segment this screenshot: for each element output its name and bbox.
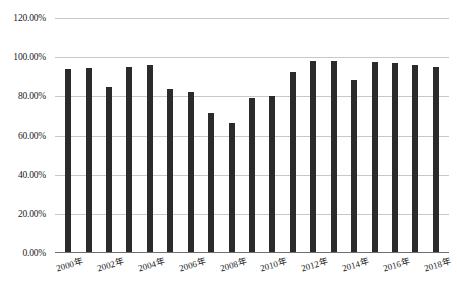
x-tick-label: 2018年: [423, 256, 452, 273]
y-tick-label: 120.00%: [13, 13, 46, 23]
bar-slot: [221, 18, 241, 253]
bar-slot: [58, 18, 78, 253]
x-tick-label: 2006年: [178, 256, 207, 273]
bar[interactable]: [106, 87, 112, 253]
bar[interactable]: [147, 65, 153, 253]
bar-slot: [303, 18, 323, 253]
bar-slot: [323, 18, 343, 253]
bar-chart: 0.00%20.00%40.00%60.00%80.00%100.00%120.…: [0, 0, 457, 293]
bar-slot: [262, 18, 282, 253]
bar-slot: [283, 18, 303, 253]
x-tick-label: 2002年: [96, 256, 125, 273]
bar[interactable]: [188, 92, 194, 253]
bar[interactable]: [126, 67, 132, 253]
bar-slot: [78, 18, 98, 253]
bar[interactable]: [392, 63, 398, 253]
bar-slot: [99, 18, 119, 253]
y-tick-label: 60.00%: [18, 131, 46, 141]
x-axis: 2000年2002年2004年2006年2008年2010年2012年2014年…: [55, 254, 449, 293]
y-tick-label: 20.00%: [18, 209, 46, 219]
bar[interactable]: [269, 96, 275, 253]
bar-slot: [160, 18, 180, 253]
bar[interactable]: [86, 68, 92, 253]
y-axis: 0.00%20.00%40.00%60.00%80.00%100.00%120.…: [0, 0, 52, 293]
bar[interactable]: [412, 65, 418, 253]
bar-slot: [140, 18, 160, 253]
bar-slot: [426, 18, 446, 253]
bar[interactable]: [351, 80, 357, 253]
bar[interactable]: [310, 61, 316, 253]
x-tick-label: 2010年: [259, 256, 288, 273]
x-tick-label: 2004年: [137, 256, 166, 273]
y-tick-label: 100.00%: [13, 52, 46, 62]
bar[interactable]: [372, 62, 378, 253]
x-tick-label: 2012年: [300, 256, 329, 273]
bar-slot: [405, 18, 425, 253]
bar[interactable]: [229, 123, 235, 253]
x-axis-line: [55, 252, 449, 253]
bar-slot: [242, 18, 262, 253]
bar-slot: [201, 18, 221, 253]
x-tick-label: 2000年: [55, 256, 84, 273]
bar[interactable]: [433, 67, 439, 253]
bar-slot: [364, 18, 384, 253]
bar-slot: [344, 18, 364, 253]
bar-slot: [385, 18, 405, 253]
x-tick-label: 2016年: [382, 256, 411, 273]
bar[interactable]: [331, 61, 337, 253]
bar[interactable]: [290, 72, 296, 253]
bar[interactable]: [249, 98, 255, 253]
y-tick-label: 0.00%: [22, 248, 46, 258]
bar-slot: [119, 18, 139, 253]
y-tick-label: 40.00%: [18, 170, 46, 180]
bar[interactable]: [65, 69, 71, 253]
bar-series: [55, 18, 449, 253]
x-tick-label: 2008年: [219, 256, 248, 273]
plot-area: [55, 18, 449, 253]
bar[interactable]: [167, 89, 173, 253]
y-tick-label: 80.00%: [18, 91, 46, 101]
x-tick-label: 2014年: [341, 256, 370, 273]
bar[interactable]: [208, 113, 214, 253]
bar-slot: [181, 18, 201, 253]
